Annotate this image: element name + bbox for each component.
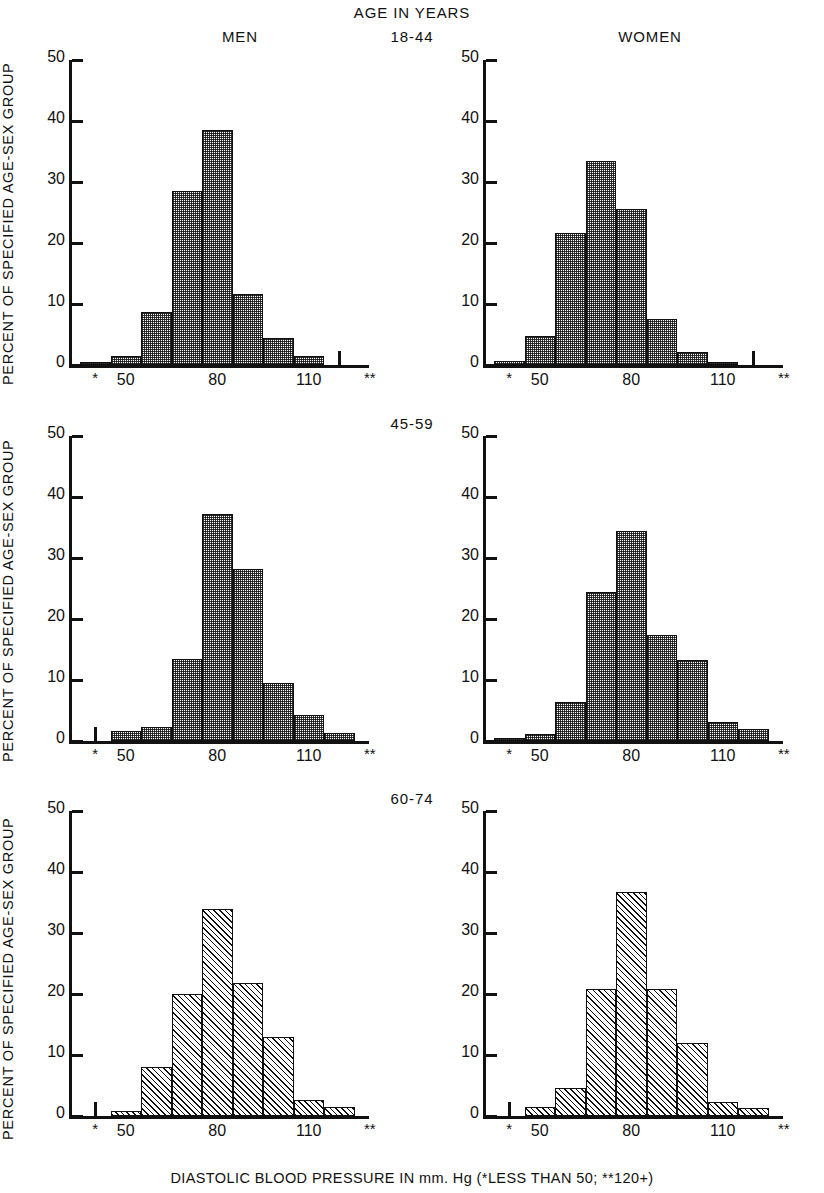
x-tick-label-2: 80 <box>622 1123 640 1139</box>
x-axis-line <box>69 1116 369 1119</box>
bar <box>324 1107 355 1116</box>
bars-men-60-74 <box>72 811 369 1116</box>
plot-area-men-45-59: 01020304050*5080110** <box>69 436 369 744</box>
x-tick-label-0: * <box>506 746 512 761</box>
y-axis-title-row-3: PERCENT OF SPECIFIED AGE-SEX GROUP <box>0 1116 16 1140</box>
super-title: AGE IN YEARS <box>0 4 824 21</box>
y-tick-label-50: 50 <box>35 425 65 441</box>
y-tick-label-20: 20 <box>35 608 65 624</box>
y-tick-label-30: 30 <box>35 547 65 563</box>
y-tick-label-0: 0 <box>449 730 479 746</box>
x-tick-labels-men-18-44: *5080110** <box>72 372 369 396</box>
y-tick-label-10: 10 <box>449 669 479 685</box>
bars-women-18-44 <box>486 60 783 365</box>
bar <box>738 1108 769 1116</box>
x-tick-label-4: ** <box>778 370 790 385</box>
x-tick-label-1: 50 <box>531 1123 549 1139</box>
y-axis-title-row-1: PERCENT OF SPECIFIED AGE-SEX GROUP <box>0 361 16 385</box>
y-tick-label-0: 0 <box>35 354 65 370</box>
bars-men-45-59 <box>72 436 369 741</box>
x-tick-label-1: 50 <box>117 748 135 764</box>
panel-men-18-44: 01020304050*5080110** <box>24 52 384 382</box>
bar <box>525 734 556 741</box>
bar <box>647 635 678 741</box>
y-axis-title-row-2: PERCENT OF SPECIFIED AGE-SEX GROUP <box>0 738 16 762</box>
bar <box>708 1102 739 1116</box>
y-tick-label-50: 50 <box>449 800 479 816</box>
bar <box>647 989 678 1116</box>
bar <box>263 683 294 741</box>
y-tick-label-10: 10 <box>35 293 65 309</box>
y-tick-label-0: 0 <box>449 354 479 370</box>
bar <box>508 1102 511 1116</box>
bar <box>708 362 739 365</box>
x-tick-label-0: * <box>92 370 98 385</box>
y-tick-label-10: 10 <box>35 669 65 685</box>
bar <box>172 191 203 365</box>
bar <box>494 738 525 741</box>
bar <box>294 1100 325 1116</box>
bar <box>525 1107 556 1116</box>
y-tick-label-10: 10 <box>449 293 479 309</box>
x-tick-labels-men-60-74: *5080110** <box>72 1123 369 1147</box>
x-tick-label-0: * <box>506 370 512 385</box>
y-tick-label-20: 20 <box>35 983 65 999</box>
bar <box>141 1067 172 1116</box>
y-tick-label-40: 40 <box>449 486 479 502</box>
y-tick-label-20: 20 <box>449 608 479 624</box>
bar <box>494 361 525 365</box>
bar <box>263 338 294 365</box>
panel-women-60-74: 01020304050*5080110** <box>438 803 798 1133</box>
bar <box>677 352 708 365</box>
panel-men-45-59: 01020304050*5080110** <box>24 428 384 758</box>
bar <box>647 319 678 365</box>
x-tick-label-3: 110 <box>710 372 736 388</box>
y-tick-label-20: 20 <box>35 232 65 248</box>
y-tick-label-30: 30 <box>449 171 479 187</box>
bar <box>677 1043 708 1116</box>
x-tick-labels-women-45-59: *5080110** <box>486 748 783 772</box>
x-tick-label-3: 110 <box>710 1123 736 1139</box>
x-tick-label-0: * <box>506 1121 512 1136</box>
y-tick-label-30: 30 <box>449 922 479 938</box>
bar <box>141 727 172 741</box>
x-tick-labels-men-45-59: *5080110** <box>72 748 369 772</box>
bar <box>616 209 647 365</box>
y-tick-label-20: 20 <box>449 232 479 248</box>
bar <box>616 892 647 1116</box>
bar <box>738 729 769 741</box>
bars-men-18-44 <box>72 60 369 365</box>
y-tick-label-50: 50 <box>35 49 65 65</box>
x-tick-label-3: 110 <box>296 748 322 764</box>
y-tick-label-40: 40 <box>35 861 65 877</box>
y-tick-label-10: 10 <box>35 1044 65 1060</box>
bar <box>677 660 708 741</box>
bar <box>233 294 264 365</box>
bar <box>586 161 617 365</box>
x-axis-line <box>69 741 369 744</box>
y-tick-label-0: 0 <box>35 1105 65 1121</box>
x-axis-line <box>483 1116 783 1119</box>
bar <box>233 569 264 741</box>
panel-men-60-74: 01020304050*5080110** <box>24 803 384 1133</box>
x-tick-label-4: ** <box>778 746 790 761</box>
x-axis-line <box>483 365 783 368</box>
bar <box>294 356 325 365</box>
x-tick-label-0: * <box>92 746 98 761</box>
x-tick-label-3: 110 <box>296 372 322 388</box>
bar <box>202 130 233 365</box>
x-tick-label-4: ** <box>778 1121 790 1136</box>
plot-area-men-18-44: 01020304050*5080110** <box>69 60 369 368</box>
x-tick-label-1: 50 <box>117 1123 135 1139</box>
bar <box>525 336 556 365</box>
bar <box>111 356 142 365</box>
bar <box>555 1088 586 1116</box>
x-tick-label-2: 80 <box>208 372 226 388</box>
bars-women-45-59 <box>486 436 783 741</box>
bar <box>294 715 325 741</box>
x-tick-label-4: ** <box>364 370 376 385</box>
plot-area-men-60-74: 01020304050*5080110** <box>69 811 369 1119</box>
x-tick-label-2: 80 <box>208 748 226 764</box>
bar <box>324 733 355 741</box>
bar <box>172 994 203 1116</box>
